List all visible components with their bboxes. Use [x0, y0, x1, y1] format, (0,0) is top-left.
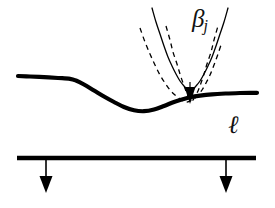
obstacle-curve-path: [18, 76, 257, 111]
beta-subscript: j: [203, 17, 207, 34]
baseline-arrow-left: [40, 158, 53, 193]
baseline-arrow-right: [220, 158, 233, 193]
dashed-wide-parabola-path: [140, 28, 222, 102]
figure-canvas: βj ℓ: [0, 0, 275, 208]
solid-parabola-path: [152, 8, 228, 90]
diagram-svg: [0, 0, 275, 208]
ell-label: ℓ: [228, 112, 238, 137]
tangency-arrow: [185, 82, 196, 104]
beta-j-label: βj: [192, 6, 208, 34]
